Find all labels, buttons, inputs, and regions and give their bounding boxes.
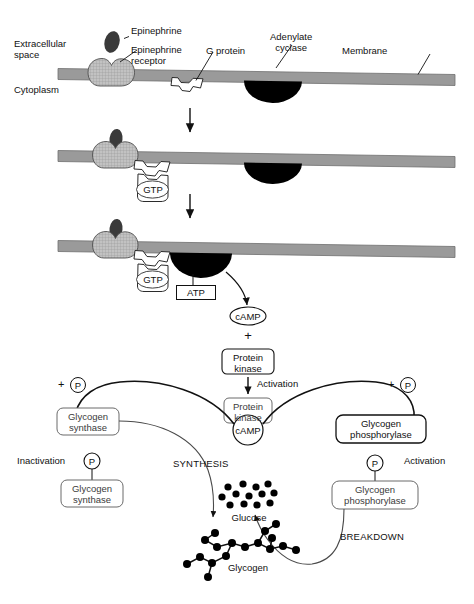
label-epinephrine: Epinephrine — [131, 25, 182, 36]
label-g-protein: G protein — [206, 45, 245, 56]
label-glycogen-synthase-inactive: Glycogen synthase — [63, 483, 121, 505]
label-activation-center: Activation — [257, 378, 298, 389]
label-plus-right: + — [388, 379, 394, 390]
label-protein-kinase-active: Protein kinase — [226, 401, 270, 423]
label-glucose: Glucose — [222, 512, 276, 523]
label-plus-sign: + — [241, 330, 255, 341]
label-breakdown: BREAKDOWN — [340, 531, 404, 542]
label-phosphate-on-phosphorylase: P — [368, 458, 382, 469]
label-protein-kinase: Protein kinase — [224, 352, 272, 374]
diagram-canvas: Extracellular space Cytoplasm Epinephrin… — [0, 0, 474, 604]
label-cytoplasm: Cytoplasm — [14, 84, 59, 95]
label-activation-right: Activation — [404, 455, 445, 466]
label-phosphate-left: P — [71, 380, 85, 391]
label-gtp-panel-2: GTP — [137, 184, 169, 195]
label-camp: cAMP — [231, 311, 265, 322]
label-plus-left: + — [58, 379, 64, 390]
label-glycogen-phosphorylase-active: Glycogen phosphorylase — [333, 484, 417, 506]
label-synthesis: SYNTHESIS — [173, 458, 229, 469]
label-inactivation: Inactivation — [17, 455, 65, 466]
epinephrine-molecule-1 — [102, 30, 122, 55]
label-gtp-panel-3: GTP — [137, 274, 169, 285]
synthesis-pathway-arrow — [119, 421, 213, 517]
adenylate-cyclase-2 — [244, 163, 302, 184]
label-extracellular-space: Extracellular space — [14, 38, 66, 60]
label-epinephrine-receptor: Epinephrine receptor — [131, 44, 182, 66]
epinephrine-receptor-1 — [88, 59, 135, 87]
adenylate-cyclase-3 — [170, 253, 232, 278]
label-adenylate-cyclase: Adenylate cyclase — [270, 31, 312, 53]
camp-production-arrow — [226, 272, 247, 305]
glucose-molecules — [218, 480, 277, 508]
label-phosphate-right: P — [401, 380, 415, 391]
label-glycogen-synthase-active: Glycogen synthase — [59, 411, 117, 433]
label-atp: ATP — [176, 285, 216, 300]
label-glycogen: Glycogen — [218, 562, 278, 573]
label-membrane: Membrane — [342, 45, 387, 56]
label-phosphate-on-synthase: P — [85, 456, 99, 467]
adenylate-cyclase-1 — [244, 81, 302, 103]
label-camp-bound: cAMP — [231, 425, 265, 436]
label-glycogen-phosphorylase-inactive: Glycogen phosphorylase — [337, 418, 425, 440]
